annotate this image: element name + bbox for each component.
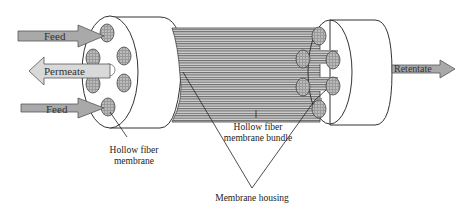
hollow-fiber-module-diagram: Feed Permeate Feed Retentate Hollow fibe…	[0, 0, 472, 212]
hollow-fiber-membrane-label-2: membrane	[114, 156, 154, 166]
hollow-fiber-membrane-label-1: Hollow fiber	[110, 145, 160, 155]
retentate-arrow: Retentate	[392, 60, 455, 78]
retentate-label: Retentate	[394, 63, 432, 74]
feed-top-label: Feed	[44, 30, 66, 42]
bundle-label-1: Hollow fiber	[234, 122, 284, 132]
membrane-housing-label: Membrane housing	[215, 193, 289, 203]
bundle-label-2: membrane bundle	[224, 133, 292, 143]
feed-bottom-label: Feed	[46, 103, 68, 115]
permeate-label: Permeate	[44, 65, 85, 77]
right-end-cap	[330, 20, 392, 125]
